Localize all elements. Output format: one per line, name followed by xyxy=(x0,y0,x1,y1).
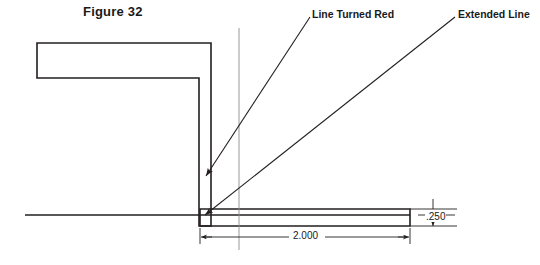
technical-drawing-svg xyxy=(0,0,540,265)
leader-line-turned-red xyxy=(206,17,310,176)
page-title: Figure 32 xyxy=(83,5,143,18)
annotation-extended-line: Extended Line xyxy=(458,9,530,20)
leader-extended-line xyxy=(205,17,455,215)
dimension-label-horizontal: 2.000 xyxy=(291,231,320,241)
annotation-line-turned-red: Line Turned Red xyxy=(312,9,394,20)
dimension-label-vertical: .250 xyxy=(425,212,446,222)
l-bracket-shape xyxy=(37,43,211,226)
drawing-canvas: Figure 32 Line Turned Red Extended Line … xyxy=(0,0,540,265)
bottom-bar-shape xyxy=(200,209,410,226)
